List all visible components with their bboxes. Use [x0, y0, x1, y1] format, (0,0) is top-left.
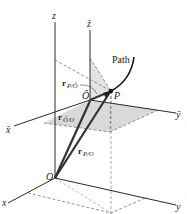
- vector-label-r-p-o: r P/O: [78, 146, 94, 157]
- y-label: y: [175, 201, 181, 212]
- point-p-label: P: [113, 90, 120, 101]
- svg-text:P/O: P/O: [82, 150, 94, 157]
- vector-label-r-p-ohat: r P/Ô: [62, 78, 78, 89]
- svg-text:P/Ô: P/Ô: [66, 82, 78, 89]
- origin-label: O: [46, 171, 53, 182]
- path-label: Path: [112, 54, 130, 65]
- dashed-line: [55, 178, 111, 213]
- dashed-line: [28, 193, 111, 213]
- y-axis: [55, 178, 176, 205]
- svg-text:Ô/O: Ô/O: [63, 116, 75, 123]
- z-bar-label: z̄: [86, 18, 91, 29]
- dashed-line: [111, 198, 145, 213]
- svg-text:r: r: [62, 78, 66, 88]
- diagram: z z̄ Path P Ô O x̄ ȳ x y r P/Ô r Ô/O r P…: [0, 0, 187, 214]
- moving-origin-label: Ô: [82, 90, 89, 101]
- svg-text:r: r: [58, 112, 62, 122]
- svg-text:r: r: [78, 146, 82, 156]
- z-label: z: [51, 10, 56, 21]
- y-bar-label: ȳ: [175, 109, 181, 120]
- point-p-dot: [109, 89, 113, 93]
- x-label: x: [1, 197, 7, 208]
- x-bar-label: x̄: [5, 124, 11, 135]
